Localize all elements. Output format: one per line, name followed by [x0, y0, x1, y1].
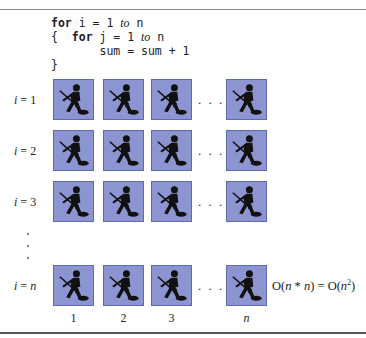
- keyword-for: for: [51, 16, 72, 30]
- worker-shovel-icon: [227, 182, 266, 221]
- worker-tile: [151, 181, 192, 222]
- column-label-n: n: [226, 311, 267, 326]
- worker-tile: [53, 265, 94, 306]
- code-line-sum: sum = sum + 1: [51, 44, 189, 58]
- worker-tile: [103, 265, 144, 306]
- complexity-formula: O(n * n) = O(n2): [272, 278, 355, 294]
- worker-tile: [226, 79, 267, 120]
- worker-shovel-icon: [54, 80, 93, 119]
- horizontal-ellipsis: . . .: [196, 278, 226, 294]
- worker-tile: [53, 79, 94, 120]
- worker-shovel-icon: [104, 131, 143, 170]
- worker-shovel-icon: [227, 266, 266, 305]
- worker-shovel-icon: [104, 182, 143, 221]
- worker-shovel-icon: [152, 80, 191, 119]
- worker-tile: [151, 130, 192, 171]
- worker-shovel-icon: [54, 131, 93, 170]
- keyword-for: for: [72, 30, 93, 44]
- vertical-ellipsis-dot: [27, 257, 29, 259]
- horizontal-ellipsis: . . .: [196, 92, 226, 108]
- horizontal-ellipsis: . . .: [196, 143, 226, 159]
- worker-tile: [103, 181, 144, 222]
- worker-shovel-icon: [104, 266, 143, 305]
- code-line-close: }: [51, 58, 58, 72]
- row-label-1: i = 1: [14, 93, 44, 108]
- code-block: for i = 1 to n { for j = 1 to n sum = su…: [51, 16, 189, 72]
- worker-shovel-icon: [152, 266, 191, 305]
- column-label-3: 3: [151, 311, 192, 326]
- worker-shovel-icon: [54, 266, 93, 305]
- worker-tile: [151, 79, 192, 120]
- worker-shovel-icon: [104, 80, 143, 119]
- worker-tile: [226, 265, 267, 306]
- worker-shovel-icon: [227, 131, 266, 170]
- row-label-3: i = 3: [14, 195, 44, 210]
- worker-tile: [226, 181, 267, 222]
- worker-tile: [103, 79, 144, 120]
- column-label-2: 2: [103, 311, 144, 326]
- column-label-1: 1: [53, 311, 94, 326]
- bottom-rule: [0, 332, 366, 334]
- worker-tile: [151, 265, 192, 306]
- worker-shovel-icon: [54, 182, 93, 221]
- worker-shovel-icon: [152, 182, 191, 221]
- row-label-n: i = n: [14, 279, 44, 294]
- vertical-ellipsis-dot: [27, 245, 29, 247]
- worker-tile: [53, 181, 94, 222]
- vertical-ellipsis-dot: [27, 233, 29, 235]
- worker-shovel-icon: [227, 80, 266, 119]
- horizontal-ellipsis: . . .: [196, 194, 226, 210]
- worker-tile: [103, 130, 144, 171]
- row-label-2: i = 2: [14, 144, 44, 159]
- worker-tile: [226, 130, 267, 171]
- worker-tile: [53, 130, 94, 171]
- top-rule: [0, 9, 366, 10]
- worker-shovel-icon: [152, 131, 191, 170]
